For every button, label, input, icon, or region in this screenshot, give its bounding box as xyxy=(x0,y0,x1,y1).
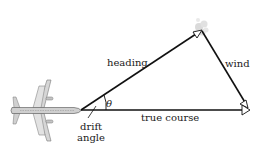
heading-label: heading xyxy=(107,57,148,68)
drift-label: drift xyxy=(80,121,102,132)
angle-label: angle xyxy=(77,132,105,143)
vector-diagram xyxy=(0,0,266,153)
heading-vector xyxy=(81,32,199,110)
wind-label: wind xyxy=(225,58,250,69)
true-course-label: true course xyxy=(141,112,199,123)
theta-label: θ xyxy=(106,98,112,109)
drift-angle-pointer xyxy=(88,106,96,118)
airplane-icon xyxy=(11,80,81,141)
